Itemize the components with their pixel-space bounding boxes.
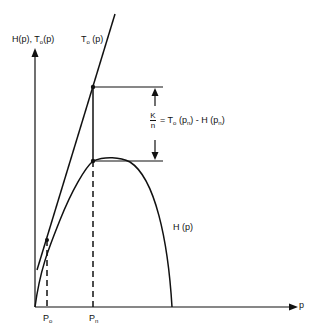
x-tick-pn: Pn — [89, 313, 98, 324]
x-tick-p0: Po — [43, 313, 52, 324]
y-axis-label: H(p), To(p) — [12, 34, 54, 45]
h-curve — [35, 158, 172, 307]
diagram-canvas — [0, 0, 314, 334]
x-axis-arrow-icon — [289, 304, 298, 311]
arrow-up-icon — [152, 88, 159, 96]
arrow-down-icon — [152, 152, 159, 160]
tangent-label: To (p) — [81, 34, 103, 45]
p0-point — [45, 238, 49, 242]
curve-label: H (p) — [173, 222, 193, 232]
equation-label: Kn= To (pn) - H (pn) — [150, 111, 225, 130]
y-axis-arrow-icon — [32, 48, 39, 57]
tangent-line — [37, 14, 115, 270]
x-axis-label: p — [299, 300, 304, 310]
